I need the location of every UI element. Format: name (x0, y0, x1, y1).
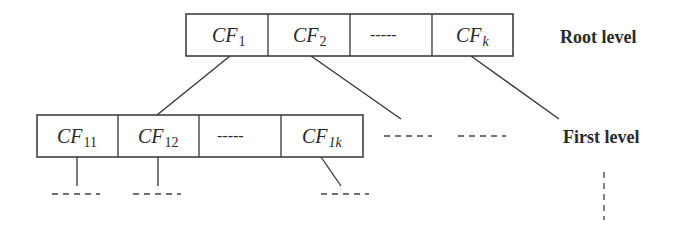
first-level-node: CF11 CF12 ----- CF1k (37, 115, 363, 157)
root-entry-cfk: CFk (456, 24, 490, 49)
connector-cf2 (311, 56, 401, 119)
root-entry-cf2: CF2 (293, 24, 327, 49)
connector-cf1-to-first (157, 56, 230, 115)
first-entry-cf12: CF12 (138, 125, 179, 150)
root-entry-cf1: CF1 (212, 24, 246, 49)
connector-cf1k (321, 157, 341, 186)
connector-cfk (471, 56, 559, 119)
first-level-label: First level (563, 127, 639, 147)
first-entry-cf11: CF11 (57, 125, 97, 150)
root-entry-ellipsis: ----- (370, 26, 397, 43)
first-entry-ellipsis: ----- (217, 127, 244, 144)
root-level-label: Root level (560, 27, 636, 47)
root-level-node: CF1 CF2 ----- CFk (186, 14, 513, 56)
first-entry-cf1k: CF1k (302, 125, 343, 150)
cf-tree-diagram: CF1 CF2 ----- CFk Root level CF11 CF12 -… (0, 0, 678, 237)
